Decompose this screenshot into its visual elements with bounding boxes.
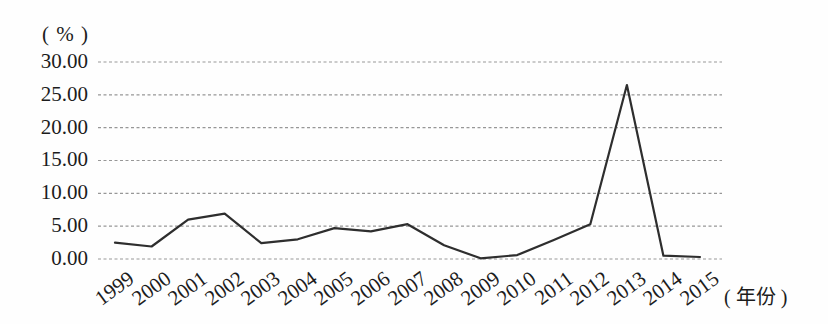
y-axis-tick-label: 20.00	[0, 115, 88, 140]
data-line	[115, 85, 700, 258]
line-chart-figure: ( % ) 30.0025.0020.0015.0010.005.000.00 …	[0, 0, 828, 324]
y-axis-tick-label: 5.00	[0, 213, 88, 238]
y-axis-tick-label: 10.00	[0, 180, 88, 205]
y-axis-tick-label: 15.00	[0, 147, 88, 172]
y-axis-tick-label: 0.00	[0, 246, 88, 271]
y-axis-tick-label: 30.00	[0, 49, 88, 74]
x-axis-unit-label: ( 年份 )	[724, 281, 787, 310]
y-axis-tick-label: 25.00	[0, 82, 88, 107]
